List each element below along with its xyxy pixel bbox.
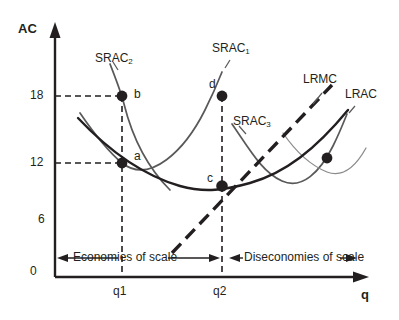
diseconomies-arrowhead-left	[229, 254, 240, 262]
point-label-a: a	[134, 150, 141, 162]
y-tick-18: 18	[30, 89, 43, 101]
point-d	[217, 91, 228, 102]
x-tick-q2: q2	[213, 285, 226, 297]
point-label-b: b	[134, 88, 141, 100]
point-b	[117, 91, 128, 102]
curve-label-srac1: SRAC1	[212, 42, 250, 54]
curve-srac1	[80, 72, 222, 170]
range-label-economies: Economies of scale	[73, 251, 177, 263]
curve-label-srac1-text: SRAC	[212, 41, 245, 55]
curve-label-lrac: LRAC	[345, 88, 377, 100]
curve-label-srac2-subscript: 2	[128, 57, 132, 66]
y-tick-6: 6	[38, 213, 45, 225]
point-a	[117, 158, 128, 169]
curve-label-srac3-text: SRAC	[233, 114, 266, 128]
origin-label: 0	[30, 265, 37, 277]
leader-lrac	[349, 106, 355, 113]
x-axis-title: q	[361, 288, 369, 301]
curve-label-srac3-subscript: 3	[266, 120, 270, 129]
range-label-diseconomies: Diseconomies of scale	[244, 251, 364, 263]
x-axis-arrowhead	[353, 272, 369, 283]
economies-arrowhead-left	[57, 254, 68, 262]
curve-label-srac2: SRAC2	[95, 52, 133, 64]
point-tangency	[322, 153, 333, 164]
point-c	[216, 180, 228, 192]
point-label-d: d	[209, 78, 216, 90]
y-axis-arrowhead	[50, 22, 61, 38]
curve-lrmc	[172, 85, 332, 253]
leader-srac1	[225, 60, 230, 68]
diagram-canvas	[0, 0, 399, 320]
data-points	[117, 91, 333, 192]
y-tick-12: 12	[30, 156, 43, 168]
y-axis-title: AC	[18, 22, 37, 35]
curve-label-srac2-text: SRAC	[95, 51, 128, 65]
economies-arrowhead-right	[209, 254, 220, 262]
curve-label-lrmc: LRMC	[303, 73, 337, 85]
curve-label-srac3: SRAC3	[233, 115, 271, 127]
curve-label-srac1-subscript: 1	[245, 47, 249, 56]
cost-curve-figure: AC q 0 18 12 6 q1 q2 SRAC2 SRAC1 SRAC3 L…	[0, 0, 399, 320]
x-tick-q1: q1	[113, 285, 126, 297]
curve-srac2	[110, 64, 170, 190]
point-label-c: c	[207, 172, 213, 184]
